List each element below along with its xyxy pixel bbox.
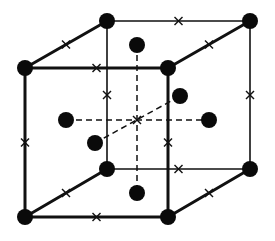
corner-atom-back_bottom_right bbox=[242, 161, 258, 177]
corner-atom-back_top_right bbox=[242, 13, 258, 29]
face-center-atom-bottom bbox=[129, 185, 145, 201]
face-center-atom-front bbox=[87, 135, 103, 151]
face-center-atom-right bbox=[201, 112, 217, 128]
corner-atom-back_bottom_left bbox=[99, 161, 115, 177]
corner-atom-front_top_right bbox=[160, 60, 176, 76]
face-center-atom-left bbox=[58, 112, 74, 128]
face-center-atom-top bbox=[129, 37, 145, 53]
face-center-atom-back bbox=[172, 88, 188, 104]
corner-atom-back_top_left bbox=[99, 13, 115, 29]
fcc-unit-cell-diagram bbox=[0, 0, 275, 241]
corner-atom-front_top_left bbox=[17, 60, 33, 76]
corner-atom-front_bottom_left bbox=[17, 209, 33, 225]
corner-atom-front_bottom_right bbox=[160, 209, 176, 225]
